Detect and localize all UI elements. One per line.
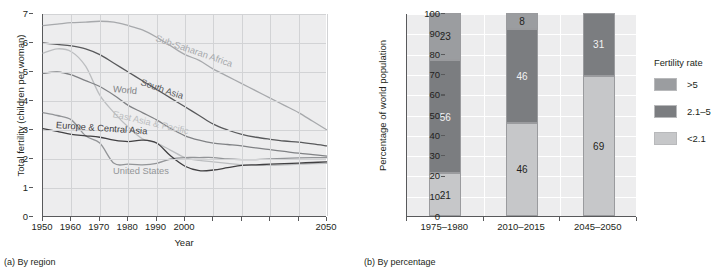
bar-value-label: 46 <box>507 164 537 175</box>
gridline <box>299 14 300 216</box>
x-tick-label: 2000 <box>164 221 204 232</box>
y-tick-label: 2 <box>0 154 28 164</box>
y-tick-label: 60 <box>412 90 440 100</box>
panel-a-x-axis-title: Year <box>42 237 326 248</box>
gridline <box>213 14 214 216</box>
gridline <box>100 14 101 216</box>
y-tick-label: 40 <box>412 131 440 141</box>
y-tick-label: 3 <box>0 125 28 135</box>
gridline <box>560 14 561 216</box>
bar-segment[interactable]: 46 <box>506 29 538 122</box>
bar-segment[interactable]: 8 <box>506 13 538 29</box>
category-label: 2045–2050 <box>558 221 638 232</box>
legend-label: >5 <box>687 79 698 90</box>
y-tick-label: 7 <box>0 9 28 19</box>
y-tick-label: 5 <box>0 67 28 77</box>
x-tick-mark <box>212 217 213 221</box>
panel-b-by-percentage: Percentage of world population 215623464… <box>360 0 720 275</box>
gridline <box>157 14 158 216</box>
y-tick-label: 50 <box>412 111 440 121</box>
bar-value-label: 31 <box>584 39 614 50</box>
panel-a-caption: (a) By region <box>4 257 56 267</box>
y-tick-label: 10 <box>412 192 440 202</box>
x-tick-label: 2050 <box>306 221 346 232</box>
bar-value-label: 69 <box>584 140 614 151</box>
x-tick-mark <box>269 217 270 221</box>
gridline <box>484 14 485 216</box>
y-tick-label: 90 <box>412 29 440 39</box>
y-tick-label: 100 <box>412 9 440 19</box>
bar-segment[interactable]: 31 <box>583 13 615 76</box>
y-tick-label: 1 <box>0 183 28 193</box>
panel-b-legend: Fertility rate >52.1–5<2.1 <box>654 58 720 155</box>
y-tick-label: 4 <box>0 96 28 106</box>
series-label-united-states: United States <box>113 166 169 176</box>
category-label: 2010–2015 <box>481 221 561 232</box>
y-tick-label: 70 <box>412 70 440 80</box>
x-tick-mark <box>298 217 299 221</box>
legend-item[interactable]: <2.1 <box>654 128 720 148</box>
legend-title: Fertility rate <box>654 58 720 68</box>
gridline <box>270 14 271 216</box>
panel-b-y-axis-title: Percentage of world population <box>377 1 388 211</box>
legend-swatch <box>654 105 677 118</box>
legend-swatch <box>654 132 677 145</box>
legend-item[interactable]: >5 <box>654 74 720 94</box>
y-tick-label: 20 <box>412 171 440 181</box>
y-tick-label: 6 <box>0 38 28 48</box>
bar-value-label: 46 <box>507 70 537 81</box>
y-tick-label: 30 <box>412 151 440 161</box>
y-tick-label: 80 <box>412 50 440 60</box>
legend-label: <2.1 <box>687 133 706 144</box>
panel-a-by-region: Total fertility (children per woman) 012… <box>0 0 360 275</box>
category-label: 1975–1980 <box>404 221 484 232</box>
legend-label: 2.1–5 <box>687 106 711 117</box>
bar-value-label: 8 <box>507 16 537 27</box>
gridline <box>242 14 243 216</box>
figure-fertility-rates: Total fertility (children per woman) 012… <box>0 0 720 275</box>
stacked-bar[interactable]: 6931 <box>583 13 615 216</box>
legend-swatch <box>654 78 677 91</box>
bar-segment[interactable]: 69 <box>583 76 615 216</box>
stacked-bar[interactable]: 46468 <box>506 13 538 216</box>
gridline <box>327 14 328 216</box>
panel-b-caption: (b) By percentage <box>364 257 436 267</box>
gridline <box>71 14 72 216</box>
x-tick-mark <box>241 217 242 221</box>
bar-segment[interactable]: 46 <box>506 123 538 216</box>
legend-item[interactable]: 2.1–5 <box>654 101 720 121</box>
